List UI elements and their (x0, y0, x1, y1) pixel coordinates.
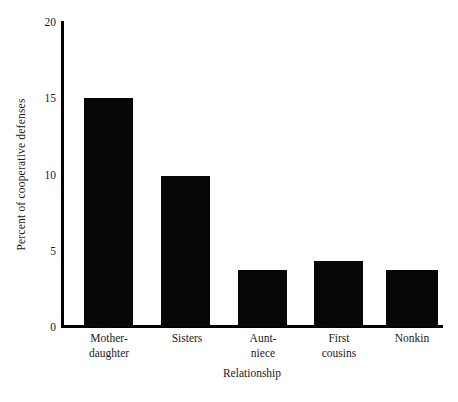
y-tick-label: 5 (30, 245, 56, 257)
bar-aunt-niece (238, 270, 287, 327)
y-tick-label: 10 (30, 169, 56, 181)
bar-sisters (161, 176, 210, 327)
bar-first-cousins (314, 261, 363, 327)
plot-area (61, 21, 443, 327)
x-tick-label-nonkin: Nonkin (366, 331, 458, 346)
y-tick-label: 0 (30, 321, 56, 333)
y-axis-title: Percent of cooperative defenses (12, 22, 30, 327)
bar-mother-daughter (84, 98, 133, 328)
y-tick-label: 20 (30, 16, 56, 28)
x-axis-title: Relationship (61, 366, 443, 380)
y-tick-label: 15 (30, 92, 56, 104)
y-axis-tick-labels: 20 15 10 5 0 (30, 0, 56, 402)
bar-chart-figure: Percent of cooperative defenses 20 15 10… (0, 0, 458, 402)
bar-nonkin (386, 270, 438, 327)
x-axis-tick-labels: Mother- daughter Sisters Aunt- niece Fir… (61, 331, 443, 371)
